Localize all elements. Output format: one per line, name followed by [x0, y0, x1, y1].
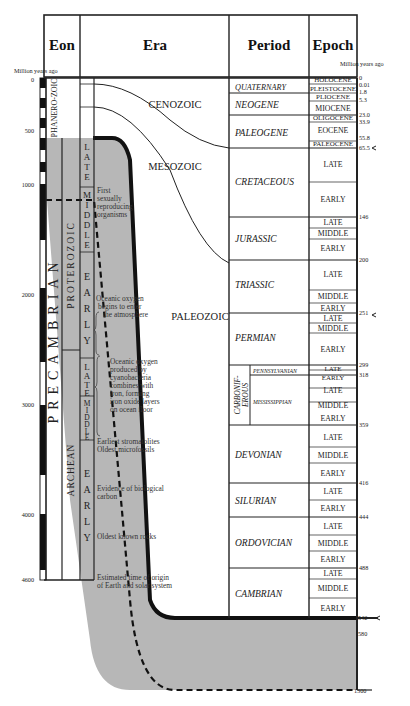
svg-text:0: 0 — [359, 74, 362, 81]
svg-text:200: 200 — [359, 256, 368, 263]
svg-text:LATE: LATE — [323, 522, 342, 531]
svg-text:LATE: LATE — [323, 270, 342, 279]
period-neogene: NEOGENE — [234, 100, 279, 110]
note-oldest-rocks: Oldest known rocks — [97, 532, 156, 541]
svg-text:416: 416 — [359, 479, 368, 486]
period-devonian: DEVONIAN — [234, 450, 282, 460]
svg-text:251: 251 — [359, 309, 368, 316]
svg-text:A: A — [83, 287, 91, 298]
header-period: Period — [248, 37, 291, 53]
header-epoch: Epoch — [313, 37, 355, 53]
svg-text:carbon: carbon — [97, 492, 117, 501]
svg-text:A: A — [84, 152, 91, 162]
svg-text:OLIGOCENE: OLIGOCENE — [313, 114, 353, 122]
epoch-labels: HOLOCENE PLEISTOCENE PLIOCENE MIOCENE OL… — [310, 76, 356, 613]
period-carboniferous-2: EROUS — [241, 383, 250, 408]
svg-text:HOLOCENE: HOLOCENE — [314, 76, 352, 84]
svg-text:E: E — [84, 172, 90, 182]
period-cambrian: CAMBRIAN — [235, 589, 283, 599]
header-eon: Eon — [49, 37, 76, 53]
period-paleogene: PALEOGENE — [234, 128, 288, 138]
svg-text:E: E — [84, 240, 90, 250]
note-earth-origin: Estimated time of originof Earth and sol… — [97, 573, 172, 590]
svg-text:D: D — [84, 210, 91, 220]
tick-500: 500 — [25, 127, 34, 134]
svg-text:444: 444 — [359, 513, 368, 520]
period-pennsylvanian: PENNSYLVANIAN — [252, 368, 298, 374]
svg-text:359: 359 — [359, 421, 368, 428]
period-permian: PERMIAN — [234, 333, 276, 343]
svg-text:Oldest microfossils: Oldest microfossils — [97, 445, 154, 454]
period-jurassic: JURASSIC — [235, 234, 277, 244]
era-cenozoic: CENOZOIC — [148, 99, 201, 110]
svg-text:PALEOCENE: PALEOCENE — [313, 140, 353, 148]
svg-text:PLEISTOCENE: PLEISTOCENE — [310, 85, 356, 93]
eon-proterozoic: PROTEROZOIC — [66, 221, 76, 308]
svg-text:EARLY: EARLY — [320, 504, 346, 513]
svg-text:65.5: 65.5 — [359, 144, 370, 151]
svg-text:E: E — [84, 468, 90, 479]
svg-text:146: 146 — [359, 213, 368, 220]
svg-text:Y: Y — [83, 532, 90, 543]
svg-text:L: L — [84, 319, 90, 330]
svg-text:EARLY: EARLY — [320, 345, 346, 354]
svg-text:MIDDLE: MIDDLE — [318, 324, 349, 333]
svg-text:299: 299 — [359, 361, 368, 368]
svg-text:on ocean floor: on ocean floor — [110, 405, 153, 414]
svg-text:the atmosphere: the atmosphere — [103, 310, 149, 319]
tick-1000: 1000 — [22, 181, 34, 188]
svg-text:EARLY: EARLY — [320, 469, 346, 478]
svg-text:LATE: LATE — [323, 160, 342, 169]
svg-text:23.0: 23.0 — [359, 111, 370, 118]
svg-text:D: D — [84, 220, 91, 230]
svg-text:Oldest known rocks: Oldest known rocks — [97, 532, 156, 541]
svg-text:0.01: 0.01 — [359, 81, 370, 88]
era-mesozoic: MESOZOIC — [148, 161, 202, 172]
tick-2000: 2000 — [22, 291, 34, 298]
svg-text:EOCENE: EOCENE — [318, 126, 349, 135]
svg-text:I: I — [86, 200, 89, 210]
period-triassic: TRIASSIC — [235, 280, 275, 290]
svg-text:LATE: LATE — [323, 569, 342, 578]
period-silurian: SILURIAN — [235, 496, 277, 506]
svg-text:MIOCENE: MIOCENE — [315, 104, 351, 113]
tick-3000: 3000 — [22, 401, 34, 408]
svg-text:55.8: 55.8 — [359, 134, 370, 141]
svg-text:LATE: LATE — [323, 218, 342, 227]
svg-text:EARLY: EARLY — [320, 414, 346, 423]
svg-text:L: L — [84, 142, 90, 152]
period-cretaceous: CRETACEOUS — [235, 177, 294, 187]
tick-0: 0 — [31, 76, 34, 83]
svg-text:488: 488 — [359, 564, 368, 571]
extinction-markers — [357, 146, 380, 690]
svg-text:1.8: 1.8 — [359, 88, 367, 95]
eon-phanerozoic: PHANERO-ZOIC — [50, 78, 59, 137]
left-axis-label: Million years ago — [14, 67, 58, 74]
tick-4600: 4600 — [22, 576, 34, 583]
svg-text:MIDDLE: MIDDLE — [318, 451, 349, 460]
svg-text:EARLY: EARLY — [320, 604, 346, 613]
svg-text:Y: Y — [83, 335, 90, 346]
period-quaternary: QUATERNARY — [235, 83, 287, 92]
svg-text:LATE: LATE — [324, 365, 341, 373]
svg-text:EARLY: EARLY — [320, 195, 346, 204]
svg-text:LATE: LATE — [323, 386, 342, 395]
svg-text:33.9: 33.9 — [359, 118, 370, 125]
eon-archean: ARCHEAN — [66, 444, 76, 497]
svg-text:M: M — [83, 190, 91, 200]
svg-text:5.3: 5.3 — [359, 96, 367, 103]
svg-text:R: R — [84, 500, 91, 511]
svg-text:E: E — [84, 388, 90, 398]
svg-text:318: 318 — [359, 371, 368, 378]
svg-text:LATE: LATE — [323, 487, 342, 496]
note-stromatolites: Earliest stromatolitesOldest microfossil… — [97, 437, 160, 454]
svg-text:EARLY: EARLY — [320, 304, 346, 313]
note-oxygen-atmosphere: Oceanic oxygenbegins to enterthe atmosph… — [96, 294, 149, 319]
svg-text:L: L — [84, 516, 90, 527]
svg-text:organisms: organisms — [97, 210, 127, 219]
svg-text:of Earth and solar system: of Earth and solar system — [97, 581, 172, 590]
svg-text:MIDDLE: MIDDLE — [318, 401, 349, 410]
header-era: Era — [143, 37, 168, 53]
svg-text:EARLY: EARLY — [322, 374, 345, 382]
geologic-time-scale-diagram: Eon Era Period Epoch Million years ago M… — [0, 0, 410, 706]
